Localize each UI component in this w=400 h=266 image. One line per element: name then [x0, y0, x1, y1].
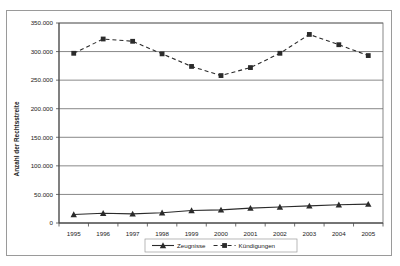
data-point-marker	[366, 53, 371, 58]
series-line-kündigungen	[74, 34, 369, 75]
data-series	[71, 32, 372, 217]
x-tick-label: 2004	[332, 230, 346, 237]
x-axis: 1995199619971998199920002001200220032004…	[59, 223, 383, 237]
data-point-marker	[222, 243, 227, 248]
data-point-marker	[189, 64, 194, 69]
data-point-marker	[71, 51, 76, 56]
y-tick-label: 250.000	[31, 76, 54, 83]
x-tick-label: 2005	[361, 230, 375, 237]
x-tick-label: 2001	[244, 230, 258, 237]
y-tick-label: 200.000	[31, 105, 54, 112]
data-point-marker	[101, 37, 106, 42]
gridlines	[59, 23, 383, 223]
x-tick-label: 2003	[302, 230, 316, 237]
chart-legend: ZeugnisseKündigungen	[145, 239, 297, 252]
data-point-marker	[248, 65, 253, 70]
y-tick-label: 300.000	[31, 48, 54, 55]
x-tick-label: 1997	[126, 230, 140, 237]
chart-figure: 050.000100.000150.000200.000250.000300.0…	[6, 10, 392, 256]
legend-label-zeugnisse: Zeugnisse	[177, 242, 206, 249]
data-point-marker	[130, 39, 135, 44]
data-point-marker	[307, 32, 312, 37]
data-point-marker	[219, 73, 224, 78]
y-tick-label: 100.000	[31, 162, 54, 169]
data-point-marker	[336, 42, 341, 47]
legend-label-kündigungen: Kündigungen	[239, 242, 276, 249]
y-tick-label: 350.000	[31, 19, 54, 26]
x-tick-label: 1995	[67, 230, 81, 237]
y-tick-label: 150.000	[31, 134, 54, 141]
y-tick-label: 50.000	[34, 191, 53, 198]
x-tick-label: 1998	[155, 230, 169, 237]
data-point-marker	[160, 51, 165, 56]
x-tick-label: 2002	[273, 230, 287, 237]
x-tick-label: 1996	[96, 230, 110, 237]
x-tick-label: 2000	[214, 230, 228, 237]
chart-plot-area: 050.000100.000150.000200.000250.000300.0…	[7, 11, 393, 257]
y-axis: 050.000100.000150.000200.000250.000300.0…	[31, 19, 59, 226]
data-point-marker	[278, 51, 283, 56]
x-tick-label: 1999	[185, 230, 199, 237]
y-axis-title: Anzahl der Rechtsstreite	[13, 101, 20, 176]
line-chart-svg: 050.000100.000150.000200.000250.000300.0…	[7, 11, 393, 257]
y-tick-label: 0	[50, 219, 54, 226]
